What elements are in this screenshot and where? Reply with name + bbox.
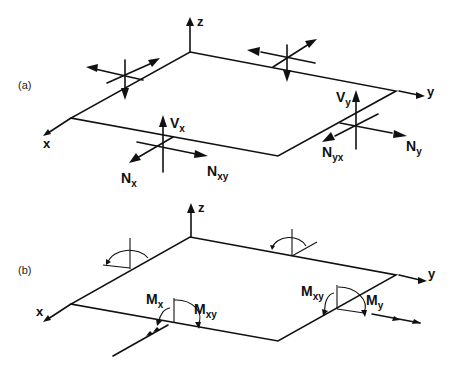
- force-cross-back-right: [247, 39, 317, 82]
- moment-label-Mx: Mx: [146, 291, 164, 310]
- z-axis-b: z: [187, 200, 205, 237]
- x-axis-label: x: [43, 136, 51, 151]
- panel-a: (a) z x y: [18, 14, 435, 189]
- panel-b-label: (b): [18, 264, 31, 276]
- panel-a-label: (a): [18, 79, 31, 91]
- force-cross-front-y: Vy Ny Nyx: [322, 89, 422, 163]
- moment-label-My: My: [366, 292, 384, 311]
- arrowhead-icon: [43, 129, 51, 136]
- moment-back-right: [270, 229, 317, 256]
- z-axis-label-b: z: [198, 200, 205, 215]
- force-label-Nyx: Nyx: [322, 144, 344, 163]
- force-cross-front-x: Vx Nx Nxy: [121, 115, 229, 189]
- arrowhead-icon: [186, 17, 194, 26]
- y-axis-label-b: y: [428, 266, 436, 281]
- moment-front-x: Mx Mxy: [113, 291, 217, 356]
- moment-label-Mxy-right: Mxy: [301, 283, 324, 302]
- z-axis-label: z: [197, 14, 204, 29]
- force-label-Nx: Nx: [121, 170, 137, 189]
- force-label-Vy: Vy: [336, 89, 351, 108]
- x-axis-b: x: [36, 304, 71, 322]
- y-axis-label: y: [427, 84, 435, 99]
- force-label-Vx: Vx: [170, 115, 185, 134]
- y-axis-a: y: [399, 84, 435, 99]
- x-axis-label-b: x: [36, 304, 44, 319]
- plate-b-outline: [71, 237, 396, 341]
- arrowhead-icon: [416, 92, 425, 99]
- x-axis-a: x: [43, 118, 71, 151]
- moment-label-Mxy-front: Mxy: [194, 301, 217, 320]
- y-axis-b: y: [399, 266, 436, 284]
- force-label-Nxy: Nxy: [207, 163, 229, 182]
- panel-b: (b) z x y: [18, 200, 436, 356]
- force-cross-back-left: [86, 58, 160, 100]
- z-axis-a: z: [186, 14, 204, 52]
- plate-stress-resultants-figure: (a) z x y: [0, 0, 458, 376]
- force-label-Ny: Ny: [406, 138, 422, 157]
